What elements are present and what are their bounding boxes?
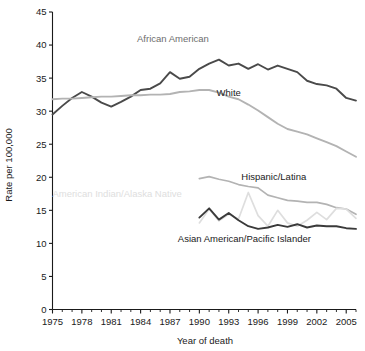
y-axis-tick-labels: 051015202530354045 <box>36 6 47 315</box>
x-tick-label: 1996 <box>248 316 269 327</box>
x-tick-label: 2002 <box>306 316 327 327</box>
x-tick-label: 1999 <box>277 316 298 327</box>
x-axis-tick-labels: 1975197819811984198719901993199619992002… <box>42 316 357 327</box>
series-inline-labels: African AmericanWhiteHispanic/LatinaAmer… <box>52 33 310 244</box>
y-tick-label: 25 <box>36 139 47 150</box>
series-label-2: Hispanic/Latina <box>241 171 307 182</box>
y-tick-label: 30 <box>36 106 47 117</box>
x-tick-label: 2005 <box>336 316 357 327</box>
series-line-2 <box>199 177 356 215</box>
chart-container: 051015202530354045 197519781981198419871… <box>0 0 365 351</box>
axes <box>53 12 357 310</box>
x-tick-label: 1975 <box>42 316 63 327</box>
x-tick-label: 1993 <box>218 316 239 327</box>
y-tick-label: 10 <box>36 238 47 249</box>
y-tick-label: 40 <box>36 39 47 50</box>
series-line-0 <box>53 60 357 115</box>
series-label-4: Asian American/Pacific Islander <box>178 233 311 244</box>
series-label-1: White <box>217 87 241 98</box>
y-tick-label: 20 <box>36 172 47 183</box>
series-label-0: African American <box>137 33 209 44</box>
y-tick-label: 5 <box>41 271 46 282</box>
x-tick-label: 1981 <box>101 316 122 327</box>
x-tick-label: 1990 <box>189 316 210 327</box>
y-tick-label: 15 <box>36 205 47 216</box>
y-axis-title: Rate per 100,000 <box>3 128 14 201</box>
line-chart: 051015202530354045 197519781981198419871… <box>0 0 365 351</box>
x-axis-title: Year of death <box>177 335 233 346</box>
x-tick-label: 1978 <box>71 316 92 327</box>
y-tick-label: 35 <box>36 73 47 84</box>
axis-ticks <box>49 12 356 314</box>
data-series-lines <box>53 60 357 229</box>
y-tick-label: 45 <box>36 6 47 17</box>
x-tick-label: 1987 <box>159 316 180 327</box>
x-tick-label: 1984 <box>130 316 151 327</box>
series-label-3: American Indian/Alaska Native <box>52 188 181 199</box>
y-tick-label: 0 <box>41 304 46 315</box>
